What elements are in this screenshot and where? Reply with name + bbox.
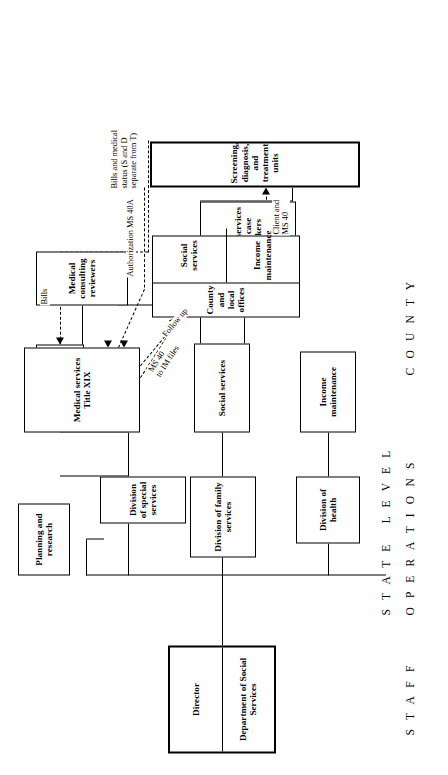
- flow-into-medical-arrow-2: [120, 340, 128, 347]
- box-screening-diagnosis-treatment-units-label: Screening, diagnosis, and treatment unit…: [152, 140, 358, 185]
- box-director-title: Director: [170, 647, 223, 751]
- swimlane-label-staff: S T A F F: [404, 662, 416, 735]
- flow-client-ms40-arrow: [262, 187, 270, 194]
- connector-special-to-finance-a: [128, 432, 129, 476]
- box-screening-diagnosis-treatment-units[interactable]: Screening, diagnosis, and treatment unit…: [150, 141, 360, 187]
- connector-special-services: [128, 523, 129, 575]
- swimlane-label-state-level: S T A T E L E V E L: [380, 447, 392, 615]
- flow-label-bills: Bills: [40, 287, 50, 305]
- box-county-local-offices[interactable]: County and local offices Social services…: [152, 235, 300, 317]
- flow-label-bills-medical-status: Bills and medical status (S and D separa…: [110, 128, 139, 189]
- connector-social-to-county-b: [244, 317, 245, 343]
- box-director[interactable]: Director Department of Social Services: [168, 645, 276, 753]
- flow-bills-status-line: [148, 140, 149, 252]
- connector-planning-stub: [86, 539, 87, 575]
- box-income-maintenance[interactable]: Income maintenance: [300, 351, 356, 432]
- flow-into-medical-arrow-1: [104, 340, 112, 347]
- box-division-health[interactable]: Division of health: [296, 476, 360, 543]
- box-planning-research-label: Planning and research: [19, 504, 69, 574]
- box-social-services[interactable]: Social services: [194, 343, 250, 432]
- flow-label-authorization: Authorization MS 40A: [126, 198, 136, 277]
- box-division-special-services[interactable]: Division of special services: [100, 476, 186, 523]
- org-chart-canvas: Director Department of Social Services P…: [0, 0, 448, 775]
- diagram-canvas-frame: Director Department of Social Services P…: [0, 0, 448, 775]
- box-county-local-offices-header: County and local offices: [153, 283, 299, 316]
- box-planning-research[interactable]: Planning and research: [18, 503, 70, 575]
- swimlane-label-county: C O U N T Y: [404, 278, 416, 375]
- swimlane-label-operations: O P E R A T I O N S: [404, 459, 416, 615]
- connector-medical-to-reviewers: [82, 305, 83, 347]
- box-county-local-offices-income: Income maintenance: [227, 228, 300, 282]
- box-medical-consulting-reviewers[interactable]: Medical consulting reviewers: [36, 251, 128, 305]
- connector-health-services: [328, 543, 329, 575]
- box-director-department: Department of Social Services: [223, 647, 275, 751]
- box-income-maintenance-label: Income maintenance: [301, 352, 355, 431]
- box-social-services-label: Social services: [195, 344, 249, 431]
- box-medical-consulting-reviewers-label: Medical consulting reviewers: [37, 252, 127, 304]
- connector-health-to-income: [328, 432, 329, 476]
- box-division-special-services-label: Division of special services: [101, 477, 185, 522]
- connector-planning-drop: [86, 538, 104, 539]
- box-medical-services-title-xix[interactable]: Medical services Title XIX: [24, 347, 140, 432]
- flow-bills-arrow: [56, 337, 64, 344]
- connector-family-services: [222, 557, 223, 575]
- box-medical-services-title-xix-label: Medical services Title XIX: [25, 348, 139, 431]
- connector-sdt-in: [292, 187, 293, 201]
- box-county-local-offices-social: Social services: [153, 228, 227, 282]
- flow-authorization-line: [144, 187, 145, 287]
- box-division-family-services-label: Division of family services: [191, 477, 255, 556]
- box-division-family-services[interactable]: Division of family services: [190, 476, 256, 557]
- flow-label-client-ms40: Client and MS 40: [272, 198, 290, 235]
- connector-family-to-social: [222, 432, 223, 476]
- connector-division-trunk: [86, 574, 386, 575]
- box-division-health-label: Division of health: [297, 477, 359, 542]
